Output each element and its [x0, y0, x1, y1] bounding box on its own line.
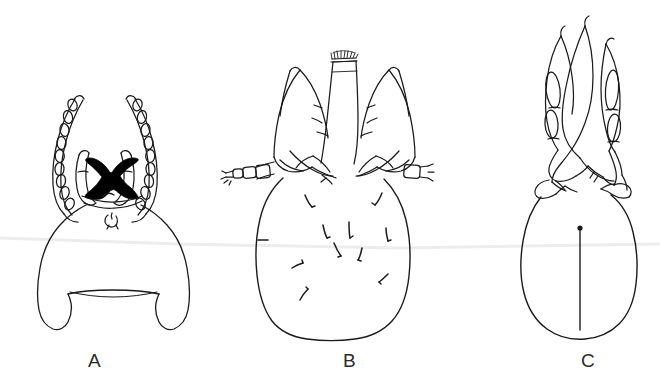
panel-label-b: B [343, 351, 356, 370]
figure-b-hypostome-column [321, 61, 358, 164]
figure-b-left-palp-joints [274, 151, 336, 184]
figure-b-hypostome-crown [331, 51, 358, 62]
figure-b-lateral-leg [221, 162, 274, 185]
figure-c-appendage-outer-left [544, 26, 574, 150]
figure-c-mounting-pin [577, 225, 582, 330]
figure-b [221, 51, 434, 341]
figure-a-body-outline [38, 205, 190, 330]
figure-a [38, 96, 190, 330]
figure-a-genital-aperture [105, 213, 118, 229]
figure-b-body-outline [256, 178, 410, 341]
scan-artifact-line [0, 238, 660, 248]
figure-b-right-palp [361, 67, 415, 157]
figure-b-right-palp-joints [356, 151, 415, 176]
plate-drawing [0, 0, 660, 390]
figure-c-body-outline [521, 195, 637, 339]
figure-b-left-palp [274, 67, 328, 157]
panel-label-c: C [581, 351, 595, 370]
figure-c [521, 16, 637, 339]
figure-c-appendage-central [562, 16, 593, 158]
illustration-plate: A B C [0, 0, 660, 390]
figure-c-appendage-right [601, 38, 621, 152]
figure-c-joints [549, 149, 622, 185]
panel-label-a: A [88, 351, 101, 370]
figure-a-left-appendage [53, 96, 84, 222]
figure-b-right-lateral-leg [404, 164, 434, 181]
